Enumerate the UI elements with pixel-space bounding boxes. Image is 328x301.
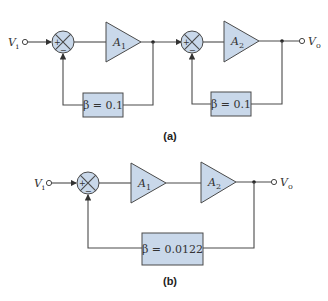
diagram-part-a: Vi + − A1 β = 0.1 +	[8, 21, 321, 142]
svg-text:β = 0.0122: β = 0.0122	[142, 243, 203, 256]
output-label-b: Vo	[280, 176, 293, 191]
feedback-block-2: β = 0.1	[211, 92, 251, 116]
feedback-diagram: Vi + − A1 β = 0.1 +	[0, 0, 328, 301]
feedback-block-1: β = 0.1	[83, 93, 123, 117]
amplifier-a1-icon: A1	[106, 22, 141, 62]
summing-junction-icon: + −	[77, 172, 99, 196]
output-terminal-icon	[299, 38, 304, 43]
svg-text:−: −	[60, 46, 67, 55]
amplifier-a2-icon: A2	[224, 21, 259, 62]
output-label-a: Vo	[308, 35, 321, 50]
feedback-block: β = 0.0122	[142, 233, 203, 265]
amplifier-a2-icon: A2	[201, 162, 236, 203]
svg-text:β = 0.1: β = 0.1	[211, 98, 251, 111]
summing-junction-2-icon: + −	[181, 31, 203, 55]
amplifier-a1-icon: A1	[131, 163, 166, 203]
input-terminal-icon	[22, 39, 27, 44]
diagram-part-b: Vi + − A1 A2 Vo β = 0.0122 (b)	[34, 162, 293, 287]
output-terminal-icon	[271, 179, 276, 184]
summing-junction-1-icon: + −	[52, 31, 74, 55]
caption-b: (b)	[163, 275, 177, 287]
input-terminal-icon	[46, 180, 51, 185]
svg-text:β = 0.1: β = 0.1	[83, 99, 123, 112]
svg-text:−: −	[85, 187, 92, 196]
caption-a: (a)	[163, 130, 177, 142]
input-label-b: Vi	[34, 177, 45, 192]
svg-text:−: −	[189, 46, 196, 55]
input-label-a: Vi	[8, 36, 19, 51]
